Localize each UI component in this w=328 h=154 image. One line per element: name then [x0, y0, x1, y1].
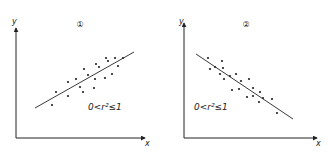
scatter-figure: y x ① 0<r²≤1 y x ② 0<r²≤1	[0, 0, 328, 154]
data-point	[248, 78, 250, 80]
x-axis-label: x	[315, 139, 321, 148]
data-point	[51, 104, 53, 106]
data-point	[117, 65, 119, 67]
data-point	[87, 74, 89, 76]
data-point	[98, 66, 100, 68]
data-point	[55, 91, 57, 93]
panel-number: ②	[242, 20, 249, 29]
data-point	[107, 60, 109, 62]
data-point	[229, 75, 231, 77]
data-point	[122, 57, 124, 59]
data-point	[104, 77, 106, 79]
y-axis-label: y	[11, 17, 17, 26]
panel-number: ①	[76, 20, 83, 29]
data-point	[252, 95, 254, 97]
data-point	[67, 81, 69, 83]
data-point	[75, 78, 77, 80]
data-point	[259, 91, 261, 93]
scatter-panel-positive: y x ① 0<r²≤1	[11, 17, 150, 148]
data-point	[94, 78, 96, 80]
data-point	[209, 68, 211, 70]
data-point	[222, 67, 224, 69]
data-point	[235, 73, 237, 75]
data-point	[114, 57, 116, 59]
r-squared-annotation: 0<r²≤1	[194, 102, 228, 112]
data-point	[223, 78, 225, 80]
data-point	[79, 86, 81, 88]
data-point	[83, 68, 85, 70]
data-point	[221, 60, 223, 62]
data-point	[219, 73, 221, 75]
data-point	[93, 87, 95, 89]
data-point	[238, 88, 240, 90]
data-point	[246, 96, 248, 98]
r-squared-annotation: 0<r²≤1	[88, 102, 122, 112]
data-point	[111, 73, 113, 75]
data-point	[252, 87, 254, 89]
data-point	[271, 98, 273, 100]
y-axis-label: y	[178, 17, 184, 26]
data-point	[105, 57, 107, 59]
data-point	[82, 91, 84, 93]
regression-line	[35, 52, 134, 108]
data-point	[95, 63, 97, 65]
data-point	[258, 101, 260, 103]
scatter-panel-negative: y x ② 0<r²≤1	[178, 17, 321, 148]
data-point	[231, 89, 233, 91]
data-point	[276, 112, 278, 114]
data-point	[207, 57, 209, 59]
data-point	[262, 97, 264, 99]
data-point	[240, 80, 242, 82]
x-axis-label: x	[144, 139, 150, 148]
data-point	[67, 95, 69, 97]
data-point	[214, 66, 216, 68]
